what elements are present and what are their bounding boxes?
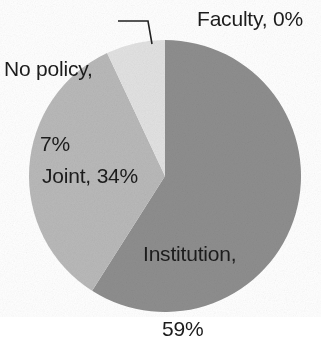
- pie-label-joint: Joint, 34%: [42, 163, 138, 188]
- pie-label-no-policy-line1: No policy,: [4, 56, 128, 81]
- pie-label-institution-line1: Institution,: [143, 241, 236, 266]
- pie-label-faculty: Faculty, 0%: [197, 6, 303, 31]
- pie-label-institution: Institution, 59%: [143, 191, 236, 340]
- pie-label-no-policy-line2: 7%: [4, 131, 128, 156]
- pie-label-institution-line2: 59%: [143, 316, 236, 340]
